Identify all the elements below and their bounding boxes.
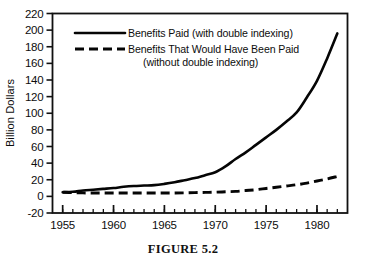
series-benefits-without-double-indexing [63, 176, 338, 193]
y-axis-tick-labels: 220200180160140120100806040200-20 [25, 8, 44, 220]
x-axis-major-ticks [63, 205, 317, 213]
legend-label-dashed-line1: Benefits That Would Have Been Paid [128, 43, 299, 55]
x-tick-label: 1965 [152, 219, 177, 231]
y-tick-label: 140 [25, 74, 44, 86]
y-tick-label: 180 [25, 41, 44, 53]
y-axis-title: Billion Dollars [4, 79, 16, 148]
x-axis-tick-labels: 195519601965197019751980 [50, 219, 329, 231]
legend-label-solid: Benefits Paid (with double indexing) [128, 27, 293, 39]
legend-label-dashed-line2: (without double indexing) [143, 56, 258, 68]
y-tick-label: 0 [37, 190, 43, 202]
y-tick-label: 160 [25, 57, 44, 69]
x-tick-label: 1970 [203, 219, 228, 231]
y-tick-label: -20 [27, 207, 43, 219]
y-tick-label: 40 [31, 157, 43, 169]
x-tick-label: 1955 [50, 219, 75, 231]
y-tick-label: 120 [25, 91, 44, 103]
y-tick-label: 60 [31, 141, 43, 153]
figure-container: 220200180160140120100806040200-20 195519… [0, 0, 366, 267]
legend: Benefits Paid (with double indexing) Ben… [75, 27, 299, 68]
y-tick-label: 100 [25, 107, 44, 119]
chart-canvas: 220200180160140120100806040200-20 195519… [0, 0, 366, 245]
y-tick-label: 220 [25, 8, 44, 20]
x-tick-label: 1980 [305, 219, 330, 231]
x-tick-label: 1960 [101, 219, 126, 231]
x-tick-label: 1975 [254, 219, 279, 231]
y-tick-label: 20 [31, 174, 43, 186]
figure-caption: FIGURE 5.2 [0, 242, 366, 257]
y-tick-label: 80 [31, 124, 43, 136]
y-tick-label: 200 [25, 24, 44, 36]
